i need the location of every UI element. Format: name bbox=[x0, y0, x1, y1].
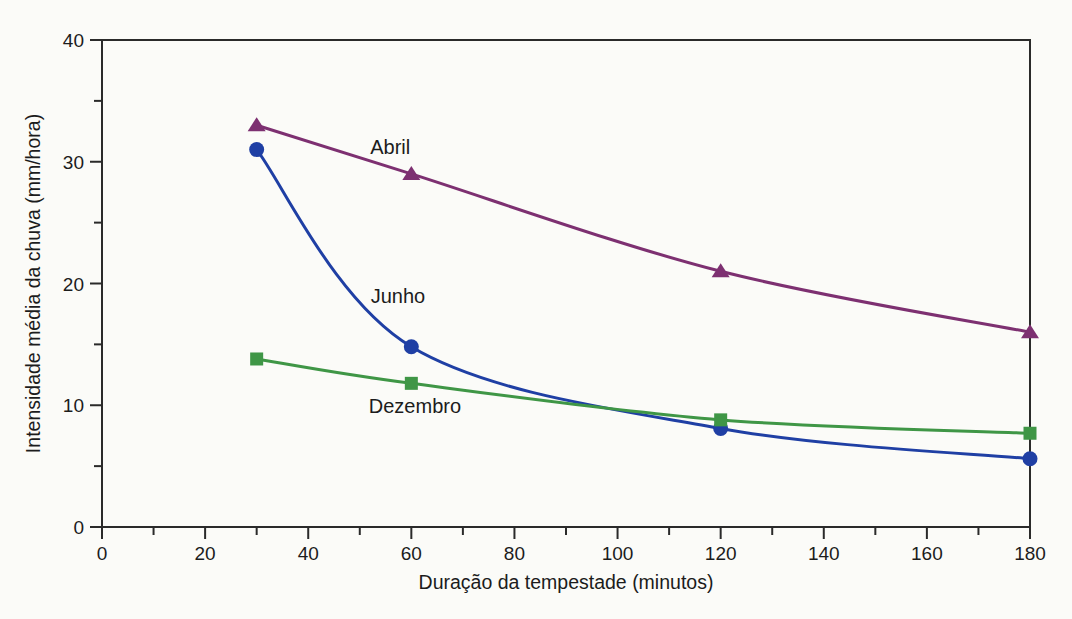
series-label-abril: Abril bbox=[370, 136, 410, 158]
square-marker-dezembro bbox=[405, 377, 418, 390]
square-marker-dezembro bbox=[1024, 427, 1037, 440]
x-tick-label: 60 bbox=[401, 543, 422, 564]
y-tick-label: 0 bbox=[73, 517, 84, 538]
y-tick-label: 20 bbox=[63, 274, 84, 295]
x-tick-label: 20 bbox=[195, 543, 216, 564]
x-tick-label: 160 bbox=[911, 543, 943, 564]
x-tick-label: 140 bbox=[808, 543, 840, 564]
x-tick-label: 80 bbox=[504, 543, 525, 564]
x-tick-label: 120 bbox=[705, 543, 737, 564]
plot-border bbox=[102, 40, 1030, 527]
series-label-junho: Junho bbox=[371, 285, 426, 307]
x-tick-label: 100 bbox=[602, 543, 634, 564]
y-tick-label: 10 bbox=[63, 395, 84, 416]
circle-marker-junho bbox=[249, 142, 264, 157]
series-label-dezembro: Dezembro bbox=[369, 395, 461, 417]
rain-intensity-line-chart: 020406080100120140160180010203040Duração… bbox=[0, 0, 1072, 619]
x-tick-label: 0 bbox=[97, 543, 108, 564]
x-axis-label: Duração da tempestade (minutos) bbox=[419, 571, 714, 593]
triangle-marker-abril bbox=[248, 117, 266, 131]
y-tick-label: 40 bbox=[63, 30, 84, 51]
circle-marker-junho bbox=[404, 339, 419, 354]
circle-marker-junho bbox=[1023, 451, 1038, 466]
square-marker-dezembro bbox=[714, 413, 727, 426]
x-tick-label: 40 bbox=[298, 543, 319, 564]
y-axis-label: Intensidade média da chuva (mm/hora) bbox=[22, 114, 44, 453]
y-tick-label: 30 bbox=[63, 152, 84, 173]
x-tick-label: 180 bbox=[1014, 543, 1046, 564]
chart-figure: 020406080100120140160180010203040Duração… bbox=[0, 0, 1072, 619]
square-marker-dezembro bbox=[250, 352, 263, 365]
